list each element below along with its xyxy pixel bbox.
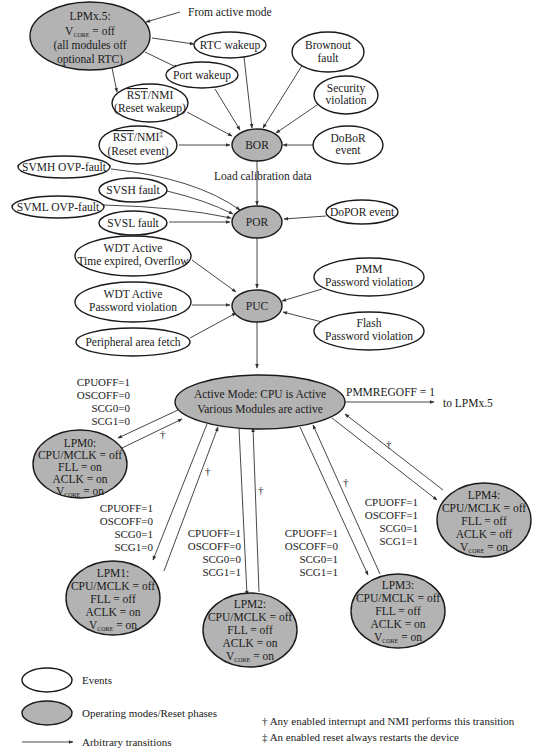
mode-lpm1: LPM1: CPU/MCLK = off FLL = off ACLK = on… [66,561,160,635]
svg-text:ACLK = on: ACLK = on [370,618,425,630]
svg-text:CPUOFF=1: CPUOFF=1 [77,376,130,388]
dagger-icon: † [160,428,166,440]
mode-por: POR [232,206,282,238]
svg-text:RST/NMI: RST/NMI [127,89,174,101]
svg-text:SVSH fault: SVSH fault [106,184,160,196]
svg-text:DoPOR event: DoPOR event [330,206,395,218]
svg-text:SCG1=0: SCG1=0 [114,541,153,553]
svg-text:OSCOFF=0: OSCOFF=0 [188,540,242,552]
svg-text:Password violation: Password violation [325,330,413,342]
svg-text:WDT Active: WDT Active [104,242,163,254]
svg-text:PMM: PMM [356,263,383,275]
mode-lpm0: LPM0: CPU/MCLK = off FLL = on ACLK = on … [33,430,127,498]
svg-text:Brownout: Brownout [305,39,352,51]
svg-text:event: event [336,144,362,156]
event-svsl-fault: SVSL fault [99,211,167,235]
svg-text:SVSL fault: SVSL fault [107,217,159,229]
svg-text:RTC wakeup: RTC wakeup [200,39,261,52]
svg-text:SCG1=1: SCG1=1 [299,566,338,578]
svg-text:(Reset event): (Reset event) [108,145,169,158]
svg-text:FLL = off: FLL = off [375,605,421,617]
dagger-icon: † [386,438,392,450]
svg-text:SCG0=1: SCG0=1 [299,553,338,565]
label-from-active-mode: From active mode [188,6,272,18]
svg-text:Password violation: Password violation [325,276,413,288]
mode-ellipse-icon [22,701,72,725]
svg-text:OSCOFF=1: OSCOFF=1 [365,509,418,521]
svg-text:ACLK = on: ACLK = on [222,637,277,649]
svg-text:CPU/MCLK = off: CPU/MCLK = off [356,592,440,604]
svg-text:SCG1=1: SCG1=1 [202,566,241,578]
svg-text:VCORE = on: VCORE = on [56,485,104,498]
svg-text:POR: POR [246,216,269,228]
event-rst-nmi-reset: RST/NMI‡ (Reset event) [99,126,177,164]
mode-puc: PUC [232,290,282,322]
legend-events: Events [22,668,112,692]
dagger-icon: † [343,476,349,488]
svg-text:fault: fault [317,52,339,64]
svg-text:SVML OVP-fault: SVML OVP-fault [17,201,100,213]
svg-text:LPM0:: LPM0: [64,437,97,449]
svg-text:CPU/MCLK = off: CPU/MCLK = off [208,611,292,623]
conditions-lpm0: CPUOFF=1 OSCOFF=0 SCG0=0 SCG1=0 [77,376,131,427]
svg-text:VCORE = on: VCORE = on [89,619,137,632]
event-port-wakeup: Port wakeup [166,62,238,88]
svg-text:(Reset wakeup): (Reset wakeup) [114,102,186,115]
legend: Events Operating modes/Reset phases Arbi… [22,668,217,748]
label-to-lpmx5: to LPMx.5 [443,397,493,409]
legend-transitions: Arbitrary transitions [22,736,172,748]
svg-text:Time expired, Overflow: Time expired, Overflow [77,255,189,268]
conditions-lpm4: CPUOFF=1 OSCOFF=1 SCG0=1 SCG1=1 [365,496,418,547]
event-rst-nmi-wakeup: RST/NMI (Reset wakeup) [112,84,188,122]
event-peripheral-area-fetch: Peripheral area fetch [76,328,190,356]
svg-text:CPUOFF=1: CPUOFF=1 [365,496,418,508]
svg-text:SCG0=0: SCG0=0 [202,553,241,565]
svg-text:Various Modules are active: Various Modules are active [197,403,323,415]
svg-text:Password violation: Password violation [89,301,177,313]
footnote-dagger: † Any enabled interrupt and NMI performs… [262,715,515,727]
mode-active: Active Mode: CPU is Active Various Modul… [175,375,345,429]
event-ellipse-icon [22,668,72,692]
footnote-double-dagger: ‡ An enabled reset always restarts the d… [262,731,459,743]
event-svmh-ovp-fault: SVMH OVP-fault [18,156,110,178]
svg-text:LPM3:: LPM3: [382,579,415,591]
svg-text:CPU/MCLK = off: CPU/MCLK = off [71,580,155,592]
svg-text:VCORE = on: VCORE = on [374,631,422,644]
event-security-violation: Security violation [314,76,378,114]
svg-text:PUC: PUC [246,300,269,312]
svg-text:Arbitrary transitions: Arbitrary transitions [82,736,172,748]
label-load-calibration: Load calibration data [214,170,312,182]
label-pmmregoff: PMMREGOFF = 1 [346,386,435,398]
svg-text:Active Mode: CPU is Active: Active Mode: CPU is Active [194,388,326,400]
event-wdt-time-expired: WDT Active Time expired, Overflow [75,236,191,276]
dagger-icon: † [258,484,264,496]
svg-text:LPMx.5:: LPMx.5: [69,10,110,22]
svg-text:SCG0=1: SCG0=1 [379,522,418,534]
svg-text:(all modules off: (all modules off [53,39,126,52]
event-doPOR: DoPOR event [326,200,398,224]
svg-text:OSCOFF=0: OSCOFF=0 [100,515,154,527]
event-flash-password-violation: Flash Password violation [314,312,424,350]
svg-text:CPU/MCLK = off: CPU/MCLK = off [38,449,122,461]
dagger-icon: † [205,465,211,477]
conditions-lpm2: CPUOFF=1 OSCOFF=0 SCG0=0 SCG1=1 [188,527,242,578]
svg-text:RST/NMI‡: RST/NMI‡ [113,130,164,143]
svg-text:CPU/MCLK = off: CPU/MCLK = off [442,502,526,514]
svg-text:LPM4:: LPM4: [468,489,501,501]
svg-text:SCG1=0: SCG1=0 [91,415,130,427]
event-wdt-password-violation: WDT Active Password violation [75,282,191,322]
svg-text:LPM1:: LPM1: [97,567,130,579]
svg-text:Port wakeup: Port wakeup [173,69,231,82]
conditions-lpm1: CPUOFF=1 OSCOFF=0 SCG0=1 SCG1=0 [100,502,154,553]
svg-text:ACLK = off: ACLK = off [456,528,513,540]
svg-text:optional RTC): optional RTC) [57,53,123,66]
svg-text:FLL = off: FLL = off [461,515,507,527]
conditions-lpm3: CPUOFF=1 OSCOFF=0 SCG0=1 SCG1=1 [285,527,339,578]
svg-text:ACLK = on: ACLK = on [52,473,107,485]
svg-text:SVMH OVP-fault: SVMH OVP-fault [22,161,107,173]
svg-text:BOR: BOR [245,139,269,151]
event-svsh-fault: SVSH fault [99,178,167,202]
svg-text:SCG1=1: SCG1=1 [379,535,418,547]
mode-bor: BOR [232,129,282,161]
svg-text:OSCOFF=0: OSCOFF=0 [77,389,131,401]
